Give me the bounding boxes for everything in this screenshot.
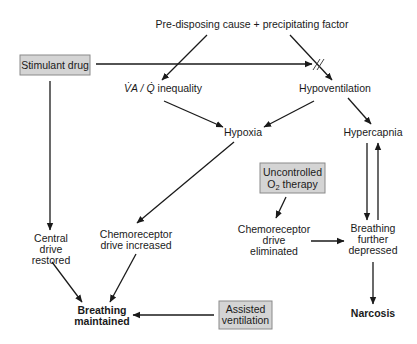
maintained-line2: maintained bbox=[74, 315, 129, 327]
node-central-drive-restored: Central drive restored bbox=[32, 232, 71, 266]
edge-cause-to-hypoventilation bbox=[290, 35, 332, 80]
stimulant-label: Stimulant drug bbox=[21, 59, 89, 71]
central-line3: restored bbox=[32, 254, 71, 266]
edge-central-to-maintained bbox=[52, 262, 82, 302]
edge-o2-to-chemo-eliminated bbox=[276, 197, 286, 218]
node-hypoventilation: Hypoventilation bbox=[299, 82, 371, 94]
edge-hypoventilation-to-hypoxia bbox=[264, 101, 314, 127]
node-chemo-increased: Chemoreceptor drive increased bbox=[100, 228, 173, 251]
assisted-line2: ventilation bbox=[222, 314, 269, 326]
edge-chemo-increased-to-maintained bbox=[110, 254, 136, 302]
edge-vq-to-hypoxia bbox=[164, 101, 223, 127]
chemo-elim-line3: eliminated bbox=[250, 245, 298, 257]
node-stimulant-drug: Stimulant drug bbox=[20, 55, 90, 75]
node-assisted-ventilation: Assisted ventilation bbox=[219, 301, 272, 329]
node-narcosis: Narcosis bbox=[351, 307, 396, 319]
edge-hypoventilation-to-hypercapnia bbox=[348, 98, 371, 124]
node-hypercapnia: Hypercapnia bbox=[344, 126, 403, 138]
node-cause: Pre-disposing cause + precipitating fact… bbox=[156, 18, 349, 30]
vq-label: V̇A / Q̇ inequality bbox=[124, 82, 203, 94]
node-vq-inequality: V̇A / Q̇ inequality bbox=[124, 82, 203, 94]
chemo-inc-line2: drive increased bbox=[100, 239, 171, 251]
edge-cause-to-vq bbox=[162, 35, 207, 80]
cause-label: Pre-disposing cause + precipitating fact… bbox=[156, 18, 349, 30]
node-breathing-further-depressed: Breathing further depressed bbox=[348, 222, 397, 256]
flow-diagram: Pre-disposing cause + precipitating fact… bbox=[0, 0, 417, 344]
node-uncontrolled-o2: Uncontrolled O2 therapy bbox=[260, 163, 325, 193]
o2-label-line1: Uncontrolled bbox=[263, 166, 322, 178]
edge-hypoxia-to-chemo-increased bbox=[137, 142, 234, 223]
node-chemo-eliminated: Chemoreceptor drive eliminated bbox=[238, 223, 311, 257]
hypoventilation-label: Hypoventilation bbox=[299, 82, 371, 94]
edges bbox=[50, 35, 378, 315]
hypercapnia-label: Hypercapnia bbox=[344, 126, 403, 138]
node-breathing-maintained: Breathing maintained bbox=[74, 304, 129, 327]
further-line3: depressed bbox=[348, 244, 397, 256]
narcosis-label: Narcosis bbox=[351, 307, 396, 319]
node-hypoxia: Hypoxia bbox=[224, 126, 262, 138]
o2-label-line2: O2 therapy bbox=[267, 178, 318, 192]
hypoxia-label: Hypoxia bbox=[224, 126, 262, 138]
